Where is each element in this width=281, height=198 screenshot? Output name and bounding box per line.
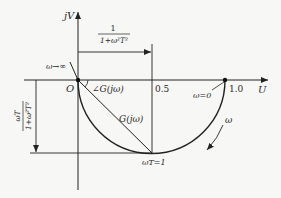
vector-label: G(jω): [119, 114, 144, 124]
real-dim-denominator: 1+ω²T²: [100, 36, 128, 45]
direction-arrow: [207, 125, 223, 150]
one-point: [223, 78, 227, 82]
vertical-axis-label: jV: [62, 10, 76, 21]
horizontal-axis-label: U: [258, 84, 267, 95]
real-dim-numerator: 1: [110, 24, 115, 33]
tick-one: 1.0: [229, 84, 244, 94]
omega-inf-label: ω→∞: [46, 62, 66, 71]
omega-inf-line: [70, 62, 78, 80]
imag-dim-denominator: 1+ω²T²: [24, 102, 33, 130]
omega-t1-label: ωT=1: [142, 158, 166, 167]
direction-label: ω: [225, 115, 233, 125]
origin-label: O: [66, 83, 74, 94]
tick-half: 0.5: [155, 84, 170, 94]
imag-dim-numerator: ωT: [13, 109, 22, 121]
nyquist-diagram: jV U O 0.5 1.0 ω→∞ ω=0 ωT=1 ∠G(jω) G(jω)…: [0, 0, 281, 198]
omega-zero-label: ω=0: [193, 91, 211, 100]
origin-point: [76, 78, 80, 82]
angle-label: ∠G(jω): [92, 84, 124, 94]
omega-zero-leader: [212, 82, 224, 90]
angle-arc: [85, 80, 88, 87]
